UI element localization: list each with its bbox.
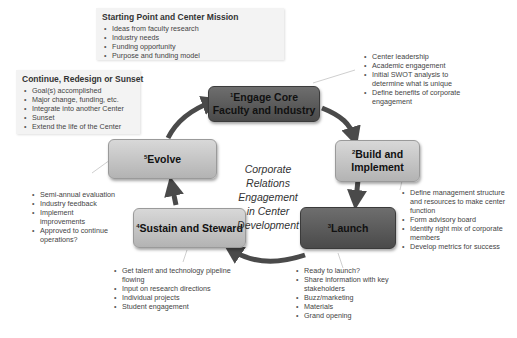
list-item: Sunset <box>22 113 134 122</box>
center-label: Corporate Relations Engagement in Center… <box>213 162 323 232</box>
list-item: Funding opportunity <box>102 42 278 51</box>
stage-label-line1: Engage Core <box>233 91 298 103</box>
stage-label-line2: Faculty and Industry <box>213 104 316 116</box>
center-label-line: Relations <box>213 176 323 190</box>
list-item: Materials <box>294 302 404 311</box>
stage-evolve: 5Evolve <box>108 139 217 179</box>
center-label-line: in Center <box>213 204 323 218</box>
list-item: Semi-annual evaluation <box>30 190 120 199</box>
evolve-notes: Semi-annual evaluation Industry feedback… <box>30 190 120 244</box>
list-item: Goal(s) accomplished <box>22 86 134 95</box>
list-item: Purpose and funding model <box>102 51 278 60</box>
center-label-line: Development <box>213 218 323 232</box>
list-item: Define benefits of corporate engagement <box>362 88 472 106</box>
build-notes: Define management structure and resource… <box>400 188 512 251</box>
list-item: Individual projects <box>112 293 237 302</box>
list-item: Share information with key stakeholders <box>294 275 404 293</box>
starting-point-title: Starting Point and Center Mission <box>102 12 278 22</box>
list-item: Industry needs <box>102 33 278 42</box>
list-item: Integrate into another Center <box>22 104 134 113</box>
stage-build: 2Build and Implement <box>335 140 420 182</box>
list-item: Ideas from faculty research <box>102 24 278 33</box>
list-item: Develop metrics for success <box>400 242 512 251</box>
list-item: Major change, funding, etc. <box>22 95 134 104</box>
list-item: Approved to continue operations? <box>30 226 120 244</box>
list-item: Implement improvements <box>30 208 120 226</box>
list-item: Extend the life of the Center <box>22 122 134 131</box>
list-item: Get talent and technology pipeline flowi… <box>112 266 237 284</box>
starting-point-panel: Starting Point and Center Mission Ideas … <box>96 8 284 60</box>
continue-panel: Continue, Redesign or Sunset Goal(s) acc… <box>16 70 140 134</box>
center-label-line: Engagement <box>213 190 323 204</box>
list-item: Input on research directions <box>112 284 237 293</box>
stage-label-line1: Launch <box>331 222 368 234</box>
list-item: Initial SWOT analysis to determine what … <box>362 70 472 88</box>
stage-label-line1: Build and <box>355 148 403 160</box>
continue-title: Continue, Redesign or Sunset <box>22 74 134 84</box>
list-item: Academic engagement <box>362 61 472 70</box>
list-item: Industry feedback <box>30 199 120 208</box>
list-item: Ready to launch? <box>294 266 404 275</box>
list-item: Define management structure and resource… <box>400 188 512 215</box>
list-item: Form advisory board <box>400 215 512 224</box>
launch-notes: Ready to launch? Share information with … <box>294 266 404 320</box>
stage-engage: 1Engage Core Faculty and Industry <box>208 86 320 122</box>
list-item: Student engagement <box>112 302 237 311</box>
list-item: Center leadership <box>362 52 472 61</box>
stage-label-line1: Evolve <box>147 153 181 165</box>
list-item: Grand opening <box>294 311 404 320</box>
center-label-line: Corporate <box>213 162 323 176</box>
engage-notes: Center leadership Academic engagement In… <box>362 52 472 106</box>
list-item: Buzz/marketing <box>294 293 404 302</box>
list-item: Identify right mix of corporate members <box>400 224 512 242</box>
stage-label-line2: Implement <box>351 161 404 173</box>
sustain-notes: Get talent and technology pipeline flowi… <box>112 266 237 311</box>
